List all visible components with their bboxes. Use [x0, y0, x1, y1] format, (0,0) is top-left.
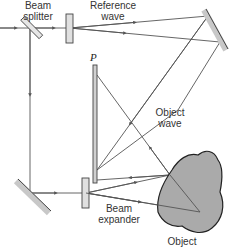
object-wave-label-line1: Object: [150, 107, 190, 118]
reference-wave-rays: [70, 16, 220, 170]
object-wave-label-line2: wave: [150, 118, 190, 129]
reference-wave-label-line1: Reference: [88, 0, 138, 11]
reference-wave-label-line2: wave: [88, 11, 138, 22]
beam-splitter-label: Beam splitter: [20, 0, 56, 22]
reference-wave-label: Reference wave: [88, 0, 138, 22]
object-wave-label: Object wave: [150, 107, 190, 129]
top-lens: [66, 14, 73, 43]
beam-splitter-label-line2: splitter: [20, 11, 56, 22]
beam-splitter-label-line1: Beam: [20, 0, 56, 11]
plate-label: P: [90, 51, 97, 63]
object-label: Object: [162, 236, 202, 247]
beam-expander-label: Beam expander: [96, 203, 142, 225]
object-shape: [158, 151, 223, 232]
beam-expander-label-line1: Beam: [96, 203, 142, 214]
top-right-mirror: [204, 9, 228, 50]
photographic-plate: [93, 65, 97, 183]
bottom-left-mirror: [16, 179, 51, 213]
beam-expander-label-line2: expander: [96, 214, 142, 225]
